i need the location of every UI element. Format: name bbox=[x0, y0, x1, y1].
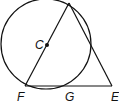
label-g: G bbox=[65, 90, 74, 104]
center-point bbox=[45, 43, 49, 47]
geometry-diagram: C F G E bbox=[0, 0, 119, 111]
label-c: C bbox=[35, 38, 44, 52]
label-e: E bbox=[111, 90, 119, 104]
label-f: F bbox=[17, 90, 25, 104]
side-top-e bbox=[69, 3, 112, 86]
